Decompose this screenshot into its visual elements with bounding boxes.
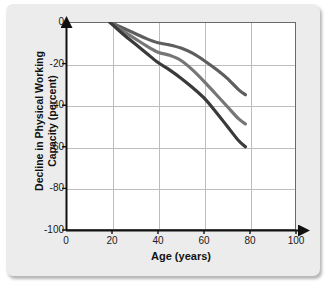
series-line-middle-curve: [110, 22, 246, 124]
y-axis-title-line2: Capacity (percent): [46, 21, 59, 221]
x-tick-labels: 020406080100: [66, 235, 302, 249]
x-tick-label: 100: [281, 235, 311, 246]
x-axis-title: Age (years): [66, 250, 296, 262]
figure-card: 0-20-40-60-80-100 020406080100 Age (year…: [6, 4, 320, 276]
x-tick-label: 60: [189, 235, 219, 246]
x-tick-label: 80: [235, 235, 265, 246]
series-layer: [66, 22, 296, 230]
x-tick-label: 0: [51, 235, 81, 246]
y-axis-title: Decline in Physical Working Capacity (pe…: [33, 21, 59, 221]
x-tick-label: 40: [143, 235, 173, 246]
y-axis-title-line1: Decline in Physical Working: [33, 21, 46, 221]
series-line-lower-curve: [110, 22, 246, 147]
y-tick-label: -100: [36, 225, 64, 235]
x-tick-label: 20: [97, 235, 127, 246]
